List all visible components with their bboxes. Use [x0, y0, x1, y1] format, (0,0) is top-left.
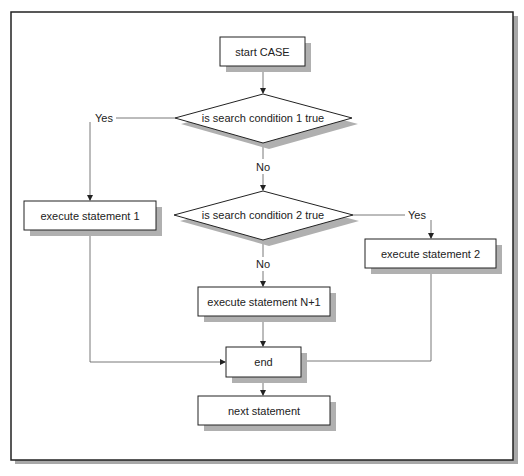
- node-execN: execute statement N+1: [198, 287, 336, 322]
- node-exec1: execute statement 1: [24, 201, 162, 236]
- node-end-label: end: [254, 356, 272, 368]
- node-cond1-label: is search condition 1 true: [202, 112, 324, 124]
- node-exec2-label: execute statement 2: [381, 248, 480, 260]
- node-execN-label: execute statement N+1: [207, 296, 320, 308]
- cond2-no-label: No: [256, 258, 270, 270]
- cond1-no-label: No: [256, 161, 270, 173]
- node-cond2-label: is search condition 2 true: [202, 209, 324, 221]
- node-end: end: [226, 347, 307, 383]
- node-next-label: next statement: [228, 405, 300, 417]
- node-start: start CASE: [220, 37, 311, 72]
- cond1-yes-label: Yes: [95, 112, 113, 124]
- node-next: next statement: [198, 396, 336, 431]
- node-start-label: start CASE: [235, 46, 289, 58]
- node-exec2: execute statement 2: [365, 239, 502, 274]
- flowchart: Yes No Yes No start CASE is search condi…: [0, 0, 524, 476]
- cond2-yes-label: Yes: [408, 209, 426, 221]
- node-exec1-label: execute statement 1: [40, 210, 139, 222]
